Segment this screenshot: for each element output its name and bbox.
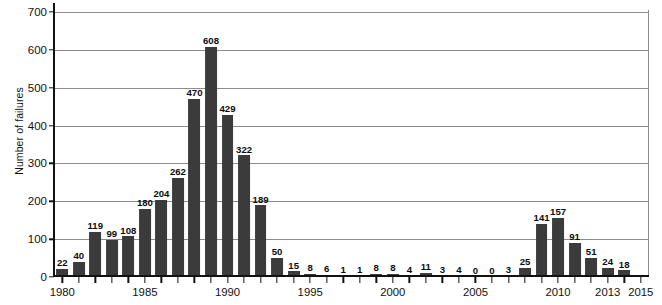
bar-value-label: 322 [236, 145, 252, 155]
x-axis-tick-mark [62, 277, 63, 283]
bar: 470 [189, 99, 201, 277]
x-axis-tick-mark [310, 277, 311, 283]
bar-value-label: 608 [203, 36, 219, 46]
bar-value-label: 6 [324, 264, 329, 274]
x-axis-tick-mark [293, 277, 294, 283]
x-axis-tick-label: 2005 [463, 286, 488, 298]
bar: 262 [172, 178, 184, 277]
y-axis-tick-label: 700 [28, 6, 47, 18]
x-axis-tick-label: 1985 [132, 286, 157, 298]
plot-inner: 0100200300400500600700 22401199910818020… [54, 12, 649, 277]
x-axis-tick-mark [243, 277, 244, 283]
bar-value-label: 204 [153, 189, 169, 199]
bar-value-label: 24 [602, 257, 613, 267]
y-axis-line [53, 3, 55, 277]
bar: 108 [122, 236, 134, 277]
y-axis-title: Number of failures [13, 51, 25, 211]
gridline [54, 12, 649, 13]
bar-value-label: 11 [421, 262, 431, 272]
bar-value-label: 50 [272, 247, 283, 257]
bar-value-label: 8 [390, 263, 395, 273]
x-axis-tick-mark [276, 277, 277, 283]
x-axis-tick-mark [409, 277, 410, 283]
bar: 180 [139, 209, 151, 277]
bar-value-label: 1 [341, 265, 346, 275]
x-axis-tick-mark [541, 277, 542, 283]
bar: 99 [106, 240, 118, 277]
x-axis-tick-mark [640, 277, 641, 283]
x-axis-tick-mark [524, 277, 525, 283]
bar: 50 [271, 258, 283, 277]
bar-value-label: 429 [220, 104, 236, 114]
bar-value-label: 8 [374, 263, 379, 273]
bar-value-label: 262 [170, 167, 186, 177]
x-axis-tick-mark [326, 277, 327, 283]
x-axis-tick-mark [491, 277, 492, 283]
x-axis-tick-mark [458, 277, 459, 283]
y-axis-tick-label: 200 [28, 195, 47, 207]
bar-value-label: 8 [307, 263, 312, 273]
x-axis-tick-mark [607, 277, 608, 283]
bar: 429 [222, 115, 234, 277]
x-axis-tick-mark [210, 277, 211, 283]
y-axis-tick-label: 100 [28, 233, 47, 245]
plot-area: 0100200300400500600700 22401199910818020… [54, 12, 649, 277]
bar-value-label: 4 [456, 265, 461, 275]
bar: 91 [569, 243, 581, 277]
bar-value-label: 3 [440, 265, 445, 275]
bar-value-label: 22 [57, 258, 68, 268]
x-axis-tick-mark [95, 277, 96, 283]
bar-value-label: 189 [253, 195, 269, 205]
y-axis-tick-label: 400 [28, 120, 47, 132]
bar: 608 [205, 47, 217, 277]
x-axis-tick-label: 1990 [215, 286, 240, 298]
x-axis-tick-mark [343, 277, 344, 283]
bar-value-label: 180 [137, 198, 153, 208]
x-axis-tick-mark [442, 277, 443, 283]
bar-value-label: 4 [407, 265, 412, 275]
x-axis-tick-mark [624, 277, 625, 283]
x-axis-tick-mark [359, 277, 360, 283]
bar-value-label: 25 [520, 257, 531, 267]
bar: 141 [536, 224, 548, 277]
x-axis-tick-mark [227, 277, 228, 283]
bar-value-label: 18 [619, 260, 630, 270]
bar: 51 [585, 258, 597, 277]
bar-value-label: 157 [550, 207, 566, 217]
bar: 119 [89, 232, 101, 277]
y-axis-tick-label: 600 [28, 44, 47, 56]
x-axis-tick-mark [557, 277, 558, 283]
bar: 189 [255, 205, 267, 277]
x-axis-tick-label: 1980 [50, 286, 75, 298]
x-axis-tick-label: 2000 [380, 286, 405, 298]
x-axis-tick-mark [144, 277, 145, 283]
x-axis-tick-mark [574, 277, 575, 283]
x-axis-tick-mark [161, 277, 162, 283]
bar-value-label: 141 [534, 213, 550, 223]
bar-value-label: 91 [569, 232, 580, 242]
x-axis-tick-label: 2010 [546, 286, 571, 298]
y-axis-tick-label: 500 [28, 82, 47, 94]
x-axis-tick-mark [392, 277, 393, 283]
bar-value-label: 51 [586, 247, 597, 257]
x-axis-tick-mark [508, 277, 509, 283]
x-axis-tick-mark [475, 277, 476, 283]
bar: 204 [155, 200, 167, 277]
gridline [54, 88, 649, 89]
x-axis-tick-mark [128, 277, 129, 283]
x-axis-tick-label: 2015 [628, 286, 653, 298]
x-axis-tick-mark [194, 277, 195, 283]
gridline [54, 50, 649, 51]
x-axis-tick-mark [590, 277, 591, 283]
x-axis-tick-mark [111, 277, 112, 283]
bank-failures-bar-chart: Number of failures 010020030040050060070… [0, 0, 662, 305]
x-axis-line [53, 275, 649, 277]
y-axis-tick-label: 300 [28, 157, 47, 169]
bar-value-label: 470 [186, 88, 202, 98]
plot-right-border [648, 10, 649, 277]
x-axis-tick-mark [78, 277, 79, 283]
x-axis-tick-mark [177, 277, 178, 283]
x-axis-tick-label: 2013 [595, 286, 620, 298]
bar-value-label: 108 [120, 226, 136, 236]
bar-value-label: 3 [506, 265, 511, 275]
